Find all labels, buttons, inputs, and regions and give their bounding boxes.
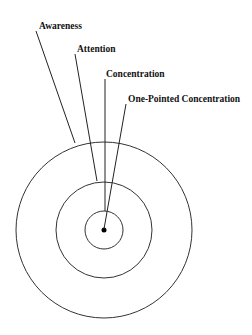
leader-lines bbox=[36, 31, 126, 229]
one-pointed-concentration-leader-line bbox=[104, 104, 126, 229]
label-attention: Attention bbox=[77, 44, 116, 54]
rings bbox=[16, 142, 192, 318]
concentric-attention-diagram: Awareness Attention Concentration One-Po… bbox=[0, 0, 252, 335]
label-one-pointed-concentration: One-Pointed Concentration bbox=[128, 94, 241, 104]
labels: Awareness Attention Concentration One-Po… bbox=[39, 21, 241, 104]
attention-leader-line bbox=[75, 54, 97, 181]
label-concentration: Concentration bbox=[106, 69, 165, 79]
awareness-leader-line bbox=[36, 31, 75, 143]
label-awareness: Awareness bbox=[39, 21, 82, 31]
